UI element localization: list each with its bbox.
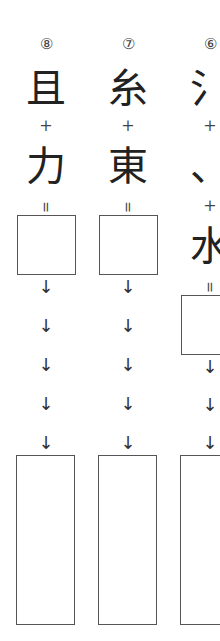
arrow-down-icon: ↓ (98, 278, 158, 296)
component-kanji: 、 (180, 146, 220, 186)
arrow-down-icon: ↓ (98, 395, 158, 413)
component-kanji: 氵 (180, 68, 220, 108)
final-answer-box-8[interactable] (16, 455, 75, 625)
final-answer-box-7[interactable] (98, 455, 157, 625)
answer-box-7[interactable] (99, 215, 158, 275)
component-kanji: 力 (16, 146, 76, 186)
arrow-down-icon: ↓ (98, 434, 158, 452)
answer-box-8[interactable] (17, 215, 76, 275)
arrow-down-icon: ↓ (98, 317, 158, 335)
arrow-down-icon: ↓ (16, 317, 76, 335)
arrow-down-icon: ↓ (98, 356, 158, 374)
answer-box-6[interactable] (181, 295, 220, 355)
component-kanji: 且 (16, 68, 76, 108)
equals-sign: = (98, 199, 158, 213)
final-answer-box-6[interactable] (180, 455, 220, 625)
plus-sign: + (180, 118, 220, 134)
equals-sign: = (16, 199, 76, 213)
plus-sign: + (180, 198, 220, 214)
arrow-down-icon: ↓ (16, 395, 76, 413)
arrow-down-icon: ↓ (180, 396, 220, 414)
question-number: ⑥ (180, 35, 220, 53)
component-kanji: 東 (98, 146, 158, 186)
arrow-down-icon: ↓ (16, 278, 76, 296)
question-number: ⑦ (98, 35, 158, 53)
arrow-down-icon: ↓ (180, 434, 220, 452)
plus-sign: + (98, 118, 158, 134)
question-number: ⑧ (16, 35, 76, 53)
arrow-down-icon: ↓ (16, 434, 76, 452)
arrow-down-icon: ↓ (16, 356, 76, 374)
equals-sign: = (180, 279, 220, 293)
component-kanji: 水 (180, 226, 220, 266)
arrow-down-icon: ↓ (180, 358, 220, 376)
plus-sign: + (16, 118, 76, 134)
component-kanji: 糸 (98, 68, 158, 108)
